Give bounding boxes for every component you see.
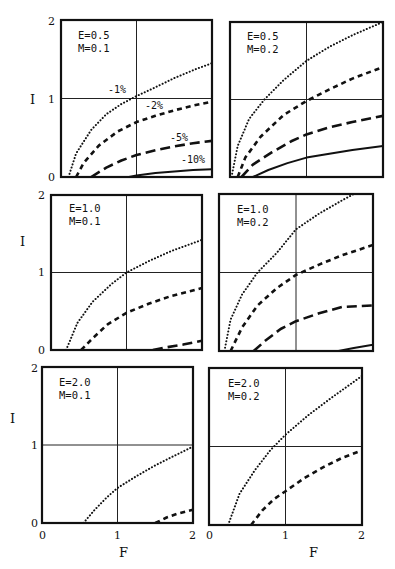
y-tick-2: 2 (31, 362, 38, 375)
y-tick-1: 1 (48, 93, 55, 106)
panel1-m-label: M=0.1 (78, 42, 110, 54)
y-tick-2: 2 (38, 189, 45, 202)
panel1-e-label: E=0.5 (78, 29, 110, 41)
y-tick-1: 1 (31, 439, 38, 452)
curve-label-2pct: -2% (145, 100, 163, 111)
panel2-e-label: E=0.5 (247, 30, 279, 42)
figure-canvas: I I I 2 1 0 2 1 0 2 1 0 0 1 2 0 1 2 F F … (0, 0, 395, 569)
panel6-m-label: M=0.2 (228, 390, 260, 402)
x-tick-2: 2 (189, 529, 196, 542)
y-tick-0: 0 (31, 517, 38, 530)
x-tick-0: 0 (206, 529, 213, 542)
x-axis-label-right: F (309, 545, 318, 560)
y-tick-2: 2 (48, 15, 55, 28)
series-solid-line (253, 146, 383, 177)
series-dotted-line (84, 447, 194, 523)
y-tick-0: 0 (48, 171, 55, 184)
series-solid-line (129, 169, 212, 177)
x-axis-label-left: F (119, 545, 128, 560)
x-tick-1: 1 (282, 529, 289, 542)
panel5-e-label: E=2.0 (59, 376, 91, 388)
y-axis-label-row3: I (10, 411, 15, 426)
curve-label-1pct: -1% (108, 84, 126, 95)
panel6-e-label: E=2.0 (228, 377, 260, 389)
x-tick-1: 1 (114, 529, 121, 542)
y-tick-0: 0 (38, 344, 45, 357)
series-long-dash-line (153, 341, 202, 350)
series-short-dash-line (231, 245, 373, 351)
y-tick-1: 1 (38, 266, 45, 279)
series-long-dash-line (242, 116, 384, 177)
y-axis-label-row1: I (30, 92, 35, 107)
panel5-m-label: M=0.1 (59, 389, 91, 401)
series-short-dash-line (155, 510, 193, 523)
panel3-e-label: E=1.0 (69, 202, 101, 214)
series-short-dash-line (251, 450, 362, 525)
y-axis-label-row2: I (20, 234, 25, 249)
series-dotted-line (66, 240, 202, 350)
curve-label-10pct: -10% (181, 154, 205, 165)
panel4-m-label: M=0.2 (237, 216, 269, 228)
series-short-dash-line (81, 288, 202, 350)
x-tick-0: 0 (39, 529, 46, 542)
panel4-e-label: E=1.0 (237, 203, 269, 215)
curve-label-5pct: -5% (170, 132, 188, 143)
x-tick-2: 2 (358, 529, 365, 542)
series-long-dash-line (254, 306, 373, 352)
panel3-m-label: M=0.1 (69, 215, 101, 227)
panel2-m-label: M=0.2 (247, 43, 279, 55)
series-short-dash-line (76, 102, 212, 177)
plot-area (42, 20, 383, 525)
